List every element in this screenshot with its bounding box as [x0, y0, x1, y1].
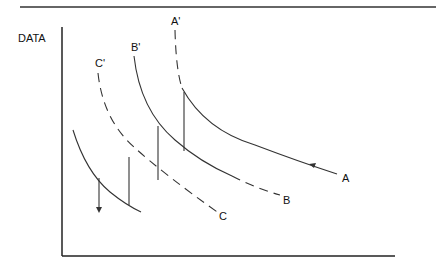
- label-a: A: [342, 172, 350, 184]
- label-b: B: [283, 194, 290, 206]
- label-a-prime: A': [171, 15, 180, 27]
- curve-a-dashed: [175, 30, 182, 88]
- y-axis-label: DATA: [18, 32, 46, 44]
- curve-lowest: [73, 130, 141, 212]
- curve-b-dashed: [232, 176, 280, 195]
- down-arrow-icon: [96, 207, 102, 213]
- label-c-prime: C': [95, 57, 105, 69]
- diagram: DATA A' B' C' A B C: [0, 0, 443, 267]
- curve-c-dashed: [98, 73, 220, 214]
- curve-a-solid: [182, 88, 337, 174]
- curve-b-solid: [134, 56, 232, 176]
- label-b-prime: B': [131, 41, 140, 53]
- label-c: C: [219, 210, 227, 222]
